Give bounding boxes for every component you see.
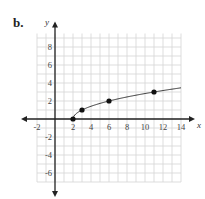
- svg-text:8: 8: [125, 122, 129, 132]
- data-point: [79, 107, 84, 112]
- svg-text:-2: -2: [45, 132, 52, 142]
- svg-text:-4: -4: [45, 150, 53, 160]
- svg-text:x: x: [196, 120, 201, 130]
- data-point: [106, 98, 111, 103]
- svg-text:y: y: [44, 17, 49, 27]
- grid-lines: [37, 34, 181, 183]
- svg-text:12: 12: [159, 122, 168, 132]
- svg-text:6: 6: [48, 60, 52, 70]
- svg-text:14: 14: [177, 122, 186, 132]
- function-graph: xy -224681012148642-2-4-6: [0, 0, 205, 199]
- svg-text:-6: -6: [45, 168, 52, 178]
- data-point: [70, 116, 75, 121]
- svg-text:2: 2: [71, 122, 75, 132]
- svg-text:6: 6: [107, 122, 111, 132]
- svg-text:4: 4: [89, 122, 94, 132]
- data-point: [151, 89, 156, 94]
- svg-text:10: 10: [141, 122, 150, 132]
- svg-text:8: 8: [48, 42, 52, 52]
- svg-text:2: 2: [48, 96, 52, 106]
- svg-text:-2: -2: [33, 122, 40, 132]
